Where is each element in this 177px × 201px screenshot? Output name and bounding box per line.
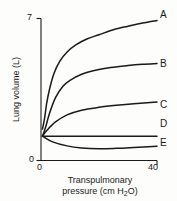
- curve-label-c: C: [160, 100, 167, 110]
- lung-compliance-chart: 7 0 0 40 Lung volume (L) Transpulmonary …: [0, 0, 177, 201]
- x-axis-title-subscript: 2: [124, 190, 128, 197]
- x-axis-title-line2-post: O): [128, 186, 138, 196]
- y-axis-tick-label-top: 7: [27, 13, 32, 22]
- y-axis-tick-label-bottom: 0: [29, 155, 34, 164]
- curve-label-d: D: [160, 119, 167, 129]
- x-axis-title-line2-pre: pressure (cm H: [62, 186, 124, 196]
- curve-b: [42, 64, 157, 137]
- x-axis-tick-label-right: 40: [148, 163, 158, 172]
- x-axis-title-line1: Transpulmonary: [68, 175, 133, 185]
- x-axis-tick-label-left: 0: [37, 163, 42, 172]
- curve-label-b: B: [160, 59, 167, 69]
- curve-c: [42, 102, 157, 136]
- curve-a: [42, 21, 157, 130]
- curve-label-e: E: [160, 138, 167, 148]
- x-axis-title: Transpulmonary pressure (cm H2O): [30, 175, 170, 198]
- curve-label-a: A: [160, 10, 167, 20]
- y-axis-title: Lung volume (L): [12, 48, 21, 132]
- curve-e: [42, 136, 157, 149]
